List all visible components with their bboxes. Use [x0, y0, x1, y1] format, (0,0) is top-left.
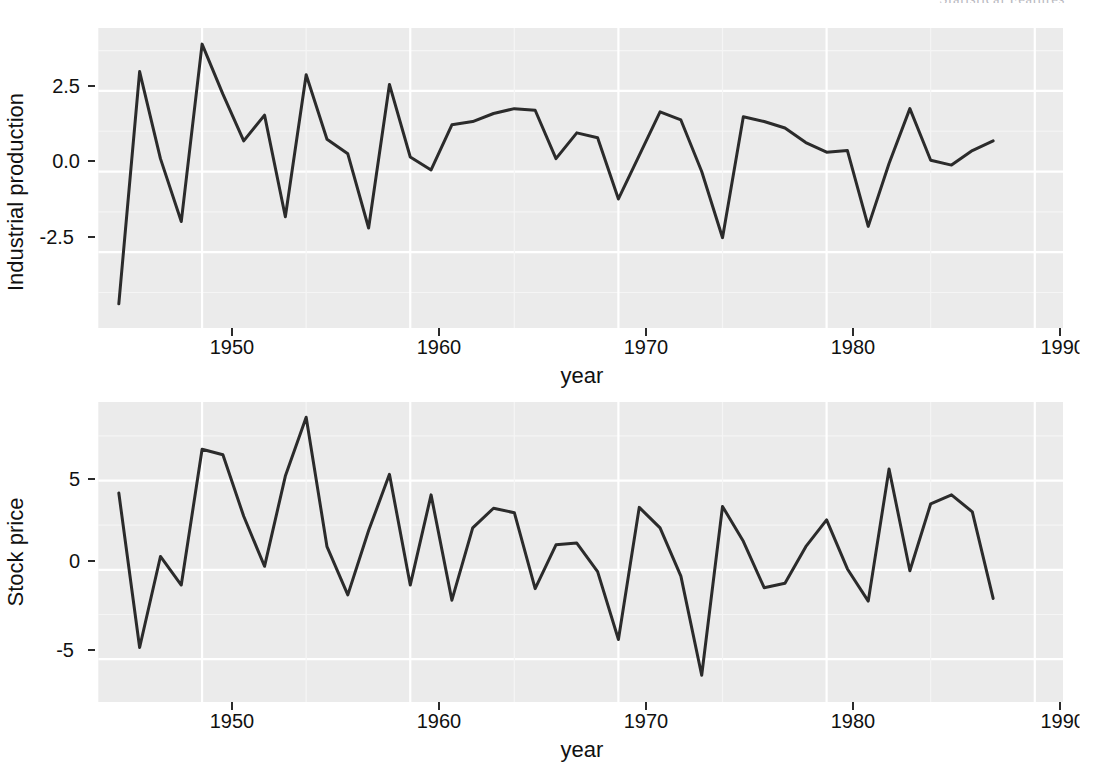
- x-tick-label: 1980: [831, 336, 876, 359]
- x-tick-label: 1960: [417, 336, 462, 359]
- panel-stock-price: Stock price 5 0 -5 1950 1960 1970 1980 1…: [0, 384, 1099, 776]
- running-header: Statistical Features: [939, 0, 1065, 3]
- x-tick-mark: [852, 328, 854, 336]
- y-tick-label: 0.0: [36, 150, 80, 173]
- y-tick-mark: [88, 649, 95, 651]
- y-tick-mark: [88, 478, 95, 480]
- y-tick-mark: [88, 160, 95, 162]
- x-tick-mark: [645, 702, 647, 710]
- y-tick-label: -2.5: [30, 226, 74, 249]
- y-tick-mark: [88, 85, 95, 87]
- chart-page: Statistical Features Industrial producti…: [0, 0, 1099, 776]
- panel-industrial-production: Industrial production 2.5 0.0 -2.5 1950 …: [0, 14, 1099, 374]
- x-tick-mark: [231, 328, 233, 336]
- x-tick-mark: [231, 702, 233, 710]
- x-tick-label: 1970: [624, 336, 669, 359]
- x-tick-label: 1950: [210, 710, 255, 733]
- y-tick-mark: [88, 560, 95, 562]
- y-axis-label-industrial-production: Industrial production: [0, 42, 33, 342]
- panel-right-clip: [1063, 402, 1099, 702]
- x-tick-label: 1980: [831, 710, 876, 733]
- x-axis-label-stock-price: year: [561, 737, 604, 763]
- x-tick-mark: [438, 328, 440, 336]
- x-tick-label: 1960: [417, 710, 462, 733]
- x-tick-mark: [852, 702, 854, 710]
- x-tick-label: 1970: [624, 710, 669, 733]
- y-tick-mark: [88, 236, 95, 238]
- x-tick-label: 1950: [210, 336, 255, 359]
- y-tick-label: -5: [30, 639, 74, 662]
- y-axis-label-stock-price: Stock price: [0, 402, 33, 702]
- x-tick-mark: [645, 328, 647, 336]
- y-tick-label: 5: [36, 468, 80, 491]
- x-tick-mark: [1059, 702, 1061, 710]
- y-tick-label: 0: [36, 550, 80, 573]
- x-tick-mark: [1059, 328, 1061, 336]
- y-tick-label: 2.5: [36, 75, 80, 98]
- panel-right-clip: [1063, 28, 1099, 328]
- x-tick-label: 1990: [1041, 336, 1080, 359]
- x-tick-label: 1990: [1041, 710, 1080, 733]
- plot-area-stock-price[interactable]: [98, 402, 1066, 702]
- x-tick-mark: [438, 702, 440, 710]
- plot-area-industrial-production[interactable]: [98, 28, 1066, 328]
